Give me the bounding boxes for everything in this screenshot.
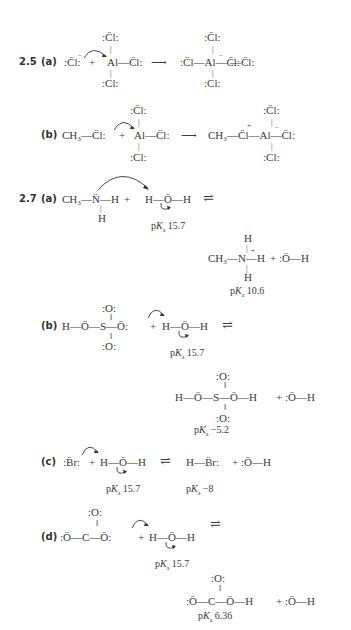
cl-bottom: :Cl:: [102, 78, 119, 89]
carbonyl-o-top: :O:: [88, 507, 102, 518]
problem-number: 2.5: [19, 56, 37, 67]
curved-arrow-icon: [130, 516, 152, 530]
pka-value: pKa 15.7: [170, 347, 204, 360]
pka-value: pKa 15.7: [106, 483, 140, 496]
hydroxide: + :Ö—H: [232, 457, 271, 468]
cl-top: :C̈l:: [102, 32, 119, 43]
curved-arrow-icon: [176, 330, 192, 342]
curved-arrow-icon: [158, 202, 174, 214]
equilibrium-arrow: ⇌: [210, 518, 221, 529]
charge-plus: +: [251, 246, 255, 257]
part-label: (b): [41, 129, 57, 140]
methylamine: CH₃—N̈—H: [62, 194, 119, 205]
product-o-bottom: :O:: [216, 413, 230, 424]
product-h-bottom: H: [244, 272, 252, 283]
part-label: (b): [41, 320, 57, 331]
double-bond: ‖: [219, 583, 221, 594]
equilibrium-arrow: ⇌: [160, 455, 171, 466]
bond-vertical: |: [110, 44, 112, 55]
hydroxide: + :Ö—H: [276, 392, 315, 403]
part-label: (a): [41, 56, 57, 67]
reaction-arrow: ⟶: [181, 130, 197, 141]
methyl-chloride: CH₃—C̈l:: [62, 130, 106, 141]
plus-sign: +: [89, 457, 95, 468]
curved-arrow-icon: [146, 306, 168, 320]
plus-sign: +: [124, 194, 130, 205]
equilibrium-arrow: ⇌: [203, 192, 214, 203]
part-label: (d): [41, 531, 57, 542]
equilibrium-arrow: ⇌: [222, 319, 233, 330]
pka-value: pKa −5.2: [194, 424, 229, 437]
curved-arrow-icon: [96, 170, 156, 192]
bicarbonate: :Ö—C—Ö—H: [186, 596, 253, 607]
charge-minus: −: [275, 123, 279, 134]
reaction-arrow: ⟶: [151, 57, 167, 68]
hydroxide: + :Ö—H: [276, 596, 315, 607]
bisulfate: H—Ö—S—Ö:: [62, 321, 128, 332]
product-cl-bottom: :Cl:: [204, 78, 221, 89]
pka-value: pKa 15.7: [151, 220, 185, 233]
product-complex: CH₃—C̈l—Al—C̈l:: [208, 130, 295, 141]
plus-sign: +: [119, 130, 125, 141]
amine-h: H: [98, 213, 106, 224]
hydrogen-bromide: H—B̈r:: [186, 457, 219, 468]
curved-arrow-icon: [114, 466, 130, 478]
product-cl-right: —C̈l:: [230, 57, 254, 68]
charge-plus: +: [247, 121, 251, 132]
pka-value: pKa 15.7: [155, 558, 189, 571]
part-label: (c): [41, 456, 56, 467]
pka-value: pKa 6.36: [198, 610, 232, 623]
aluminum-chloride: Al—C̈l:: [134, 130, 169, 141]
charge-minus: −: [219, 51, 223, 62]
sulfuric-acid: H—Ö—S—Ö—H: [175, 392, 257, 403]
pka-value: pKa −8: [186, 483, 213, 496]
product-cl-top: :C̈l:: [263, 105, 280, 116]
cl-bottom: :Cl:: [130, 152, 147, 163]
part-label: (a): [41, 193, 57, 204]
hydroxide: + :Ö—H: [270, 253, 309, 264]
plus-sign: +: [89, 57, 95, 68]
plus-sign: +: [150, 321, 156, 332]
curved-arrow-icon: [163, 541, 179, 553]
double-bond: ‖: [224, 380, 226, 391]
bond-vertical: |: [271, 117, 273, 128]
carbonate: :Ö—C—Ö:: [60, 532, 111, 543]
sulfonyl-o-bottom: :O:: [102, 341, 116, 352]
curved-arrow-icon: [80, 443, 102, 457]
bromide-ion: :B̈r:: [63, 457, 80, 468]
cl-top: :C̈l:: [130, 105, 147, 116]
bond-vertical: |: [212, 44, 214, 55]
product-cl-bottom: :Cl:: [263, 152, 280, 163]
double-bond: ‖: [96, 518, 98, 529]
problem-number: 2.7: [19, 193, 37, 204]
plus-sign: +: [138, 532, 144, 543]
aluminum-chloride: Al—C̈l:: [107, 57, 142, 68]
bond-vertical: |: [138, 117, 140, 128]
pka-value: pKa 10.6: [230, 285, 264, 298]
product-cl-top: :C̈l:: [204, 32, 221, 43]
methylammonium: CH₃—N—H: [208, 253, 265, 264]
